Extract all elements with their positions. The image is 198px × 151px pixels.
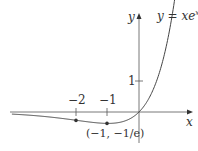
tick-label-neg1: −1 [99,94,117,106]
y-axis-label: y [128,11,135,23]
x-axis-arrow-icon [187,110,193,115]
tick-label-y1: 1 [128,75,136,87]
tick-label-neg2: −2 [68,94,86,106]
curve-label-sup: x [195,9,198,17]
point-x-neg2 [74,119,78,123]
min-point-label: (−1, −1/e) [86,128,144,139]
point-min [105,122,109,126]
curve-label-main: y = xe [157,9,195,23]
curve-label: y = xex [157,10,198,22]
curve-xex [12,0,177,123]
x-axis-label: x [186,116,193,128]
y-axis-arrow-icon [137,13,142,19]
